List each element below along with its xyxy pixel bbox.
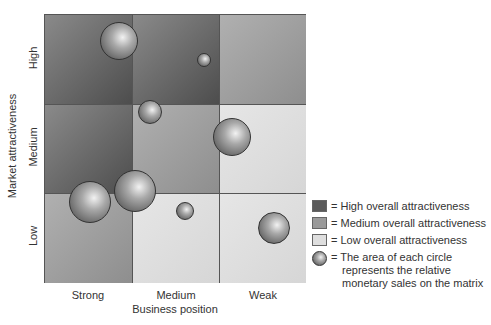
- legend-item-bubble: = The area of each circle represents the…: [312, 251, 486, 290]
- bubble-5: [69, 181, 111, 223]
- legend-swatch-high: [312, 200, 327, 212]
- y-tick-high: High: [27, 13, 39, 103]
- legend-label-low: = Low overall attractiveness: [331, 234, 467, 247]
- bubble-2: [197, 53, 211, 67]
- legend-item-medium: = Medium overall attractiveness: [312, 217, 486, 231]
- bubble-6: [114, 170, 156, 212]
- legend-swatch-low: [312, 234, 327, 246]
- legend-bubble-line2: represents the relative: [331, 264, 483, 277]
- bubble-4: [213, 118, 251, 156]
- y-tick-low: Low: [27, 191, 39, 281]
- x-tick-weak: Weak: [219, 289, 307, 301]
- y-axis-label: Market attractiveness: [6, 46, 18, 246]
- bubble-1: [100, 22, 138, 60]
- bubble-7: [176, 202, 194, 220]
- x-axis-label: Business position: [44, 303, 306, 315]
- legend-item-high: = High overall attractiveness: [312, 200, 486, 214]
- legend-label-medium: = Medium overall attractiveness: [331, 217, 486, 230]
- legend: = High overall attractiveness = Medium o…: [312, 200, 486, 290]
- sphere-icon: [312, 251, 327, 266]
- cell-high-weak: [220, 15, 306, 105]
- legend-label-high: = High overall attractiveness: [331, 200, 469, 213]
- y-tick-medium: Medium: [27, 102, 39, 192]
- x-tick-medium: Medium: [132, 289, 220, 301]
- legend-swatch-medium: [312, 217, 327, 229]
- x-tick-strong: Strong: [44, 289, 132, 301]
- legend-bubble-line3: monetary sales on the matrix: [331, 277, 483, 290]
- legend-item-low: = Low overall attractiveness: [312, 234, 486, 248]
- bubble-8: [258, 212, 290, 244]
- bubble-3: [138, 100, 162, 124]
- legend-bubble-line1: = The area of each circle: [331, 251, 483, 264]
